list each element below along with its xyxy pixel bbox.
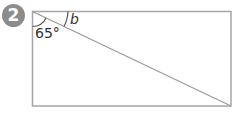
- angle-arc-b: [64, 12, 68, 27]
- angle-label-65: 65°: [35, 25, 60, 41]
- geometry-figure: 65° b: [0, 0, 248, 116]
- angle-label-b: b: [70, 11, 79, 27]
- diagonal-line: [33, 12, 232, 107]
